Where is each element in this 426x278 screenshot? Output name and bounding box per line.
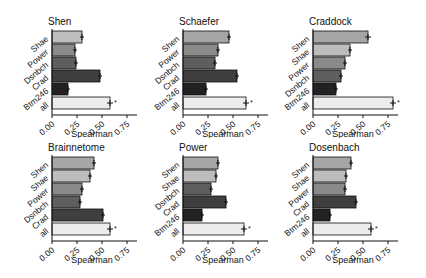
- significance-marker: *: [375, 225, 378, 232]
- x-axis-title: Spearman: [332, 255, 374, 265]
- bar-dsnbch: [52, 57, 76, 69]
- bar-btm246: [183, 83, 206, 95]
- panel-power: Power ShenShaeDsnbchCradBtm246*all0.000.…: [140, 138, 280, 276]
- x-tick-label: 0.00: [298, 245, 317, 263]
- bar-dsnbch: [183, 183, 211, 195]
- bar-crad: [183, 70, 237, 82]
- bar-btm246: [183, 209, 202, 221]
- significance-marker: *: [248, 225, 251, 232]
- panel-dosenbach: Dosenbach ShenShaePowerCradBtm246*all0.0…: [280, 138, 420, 276]
- x-axis-title: Spearman: [202, 129, 244, 138]
- x-tick-label: 0.75: [112, 245, 131, 263]
- panel-schaefer: Schaefer ShenPowerDsnbchCradBtm246*all0.…: [140, 0, 280, 138]
- bar-chart: ShenShaePowerDsnbchCrad*all0.000.250.500…: [0, 138, 140, 278]
- bar-shae: [313, 44, 350, 56]
- bar-shen: [183, 157, 218, 169]
- bar-crad: [183, 196, 226, 208]
- bar-chart: ShenPowerDsnbchCradBtm246*all0.000.250.5…: [140, 0, 280, 138]
- bar-shen: [183, 31, 229, 43]
- bar-power: [313, 183, 345, 195]
- x-tick-label: 0.00: [298, 119, 317, 137]
- panel-shen: Shen ShaePowerDsnbchCradBtm246*all0.000.…: [0, 0, 140, 138]
- x-tick-label: 0.00: [37, 119, 56, 137]
- x-tick-label: 0.00: [168, 245, 187, 263]
- x-tick-label: 0.00: [168, 119, 187, 137]
- bar-crad: [313, 196, 356, 208]
- bar-shae: [313, 170, 346, 182]
- significance-marker: *: [397, 99, 400, 106]
- x-axis-title: Spearman: [71, 129, 113, 138]
- bar-shen: [313, 31, 368, 43]
- panel-craddock: Craddock ShenShaePowerDsnbchBtm246*all0.…: [280, 0, 420, 138]
- bar-crad: [52, 209, 103, 221]
- bar-shae: [183, 170, 216, 182]
- bar-crad: [52, 70, 100, 82]
- x-tick-label: 0.75: [243, 119, 262, 137]
- x-axis-title: Spearman: [332, 129, 374, 138]
- bar-all: [313, 223, 371, 235]
- bar-dsnbch: [313, 70, 341, 82]
- bar-chart: ShenShaeDsnbchCradBtm246*all0.000.250.50…: [140, 138, 280, 278]
- bar-all: [52, 97, 110, 109]
- x-axis-title: Spearman: [71, 255, 113, 265]
- x-axis-title: Spearman: [202, 255, 244, 265]
- bar-chart: ShenShaePowerDsnbchBtm246*all0.000.250.5…: [280, 0, 426, 138]
- significance-marker: *: [250, 99, 253, 106]
- bar-all: [313, 97, 393, 109]
- bar-chart: ShenShaePowerCradBtm246*all0.000.250.500…: [280, 138, 426, 278]
- x-tick-label: 0.00: [37, 245, 56, 263]
- bar-shen: [313, 157, 351, 169]
- bar-btm246: [313, 83, 336, 95]
- bar-power: [52, 183, 82, 195]
- bar-power: [52, 44, 75, 56]
- bar-dsnbch: [183, 57, 215, 69]
- panel-brainnetome: Brainnetome ShenShaePowerDsnbchCrad*all0…: [0, 138, 140, 276]
- significance-marker: *: [114, 225, 117, 232]
- x-tick-label: 0.75: [373, 245, 392, 263]
- x-tick-label: 0.75: [373, 119, 392, 137]
- bar-btm246: [52, 83, 68, 95]
- bar-shae: [52, 170, 90, 182]
- bar-power: [313, 57, 345, 69]
- bar-btm246: [313, 209, 330, 221]
- significance-marker: *: [114, 99, 117, 106]
- bar-shae: [52, 31, 82, 43]
- x-tick-label: 0.75: [112, 119, 131, 137]
- bar-shen: [52, 157, 94, 169]
- bar-chart: ShaePowerDsnbchCradBtm246*all0.000.250.5…: [0, 0, 140, 138]
- bar-all: [52, 223, 110, 235]
- bar-power: [183, 44, 218, 56]
- bar-dsnbch: [52, 196, 80, 208]
- x-tick-label: 0.75: [243, 245, 262, 263]
- bar-all: [183, 223, 244, 235]
- bar-all: [183, 97, 246, 109]
